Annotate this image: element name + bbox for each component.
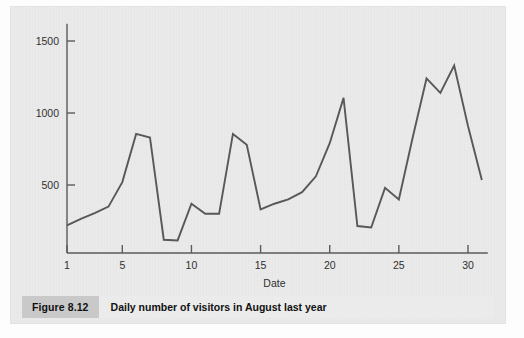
y-axis-tick-label: 500	[41, 179, 59, 191]
y-axis-tick-label: 1500	[36, 35, 60, 47]
chart-area: 50010001500151015202530Date	[0, 0, 524, 296]
x-axis-tick-label: 5	[119, 259, 125, 271]
line-chart-svg: 50010001500151015202530Date	[0, 0, 524, 296]
figure-number-label: Figure 8.12	[22, 296, 99, 318]
chart-render-group: 50010001500151015202530Date	[36, 24, 488, 289]
y-axis-tick-label: 1000	[36, 107, 60, 119]
data-series-line	[67, 65, 482, 240]
x-axis-tick-label: 15	[255, 259, 267, 271]
x-axis-tick-label: 20	[324, 259, 336, 271]
x-axis-tick-label: 10	[186, 259, 198, 271]
x-axis-tick-label: 25	[393, 259, 405, 271]
figure-caption-text: Daily number of visitors in August last …	[99, 296, 494, 318]
page-root: 50010001500151015202530Date Figure 8.12 …	[0, 0, 524, 338]
figure-caption-bar: Figure 8.12 Daily number of visitors in …	[22, 296, 494, 318]
x-axis-title: Date	[263, 277, 285, 289]
x-axis-tick-label: 30	[462, 259, 474, 271]
x-axis-tick-label: 1	[64, 259, 70, 271]
